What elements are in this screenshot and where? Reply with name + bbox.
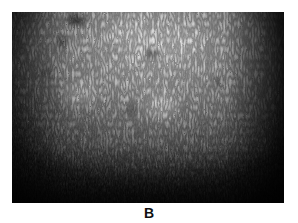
photo-texture bbox=[12, 12, 284, 203]
panel-label: B bbox=[0, 205, 298, 221]
figure-photo bbox=[12, 12, 284, 203]
